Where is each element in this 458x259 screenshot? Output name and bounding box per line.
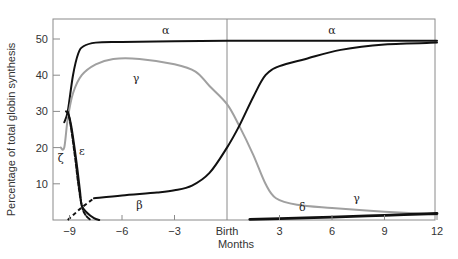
series-line-gamma xyxy=(61,58,437,214)
y-axis: 1020304050 xyxy=(36,33,60,190)
x-tick-label: Birth xyxy=(216,225,239,237)
series-layer xyxy=(61,41,437,220)
series-label-alpha: α xyxy=(328,24,336,37)
series-label-alpha: α xyxy=(162,24,170,37)
x-tick-label: −6 xyxy=(116,225,129,237)
series-line-beta xyxy=(94,43,437,199)
series-line-epsilon xyxy=(68,111,100,220)
chart: −9−6−3Birth36912 1020304050 ααγγζεβδ Mon… xyxy=(0,0,458,259)
y-axis-label: Percentage of total globin synthesis xyxy=(5,42,17,216)
x-tick-label: 3 xyxy=(276,225,282,237)
series-label-delta: δ xyxy=(299,201,306,214)
x-tick-label: −9 xyxy=(63,225,76,237)
series-label-beta: β xyxy=(136,199,142,212)
series-line-zeta xyxy=(66,111,91,220)
x-tick-label: 6 xyxy=(329,225,335,237)
x-tick-label: 9 xyxy=(381,225,387,237)
series-line-delta xyxy=(250,213,437,219)
series-label-zeta: ζ xyxy=(58,152,64,165)
y-tick-label: 10 xyxy=(36,178,48,190)
y-tick-label: 50 xyxy=(36,33,48,45)
x-tick-label: −3 xyxy=(168,225,181,237)
series-label-gamma: γ xyxy=(353,192,360,205)
series-label-epsilon: ε xyxy=(79,145,85,158)
y-tick-label: 20 xyxy=(36,142,48,154)
x-axis-label: Months xyxy=(218,238,255,250)
y-tick-label: 30 xyxy=(36,105,48,117)
series-label-gamma: γ xyxy=(133,72,140,85)
x-tick-label: 12 xyxy=(431,225,443,237)
y-tick-label: 40 xyxy=(36,69,48,81)
plot-frame xyxy=(53,19,435,220)
series-line-alpha xyxy=(64,41,437,122)
series-labels: ααγγζεβδ xyxy=(58,24,360,214)
plot-border xyxy=(53,19,435,220)
